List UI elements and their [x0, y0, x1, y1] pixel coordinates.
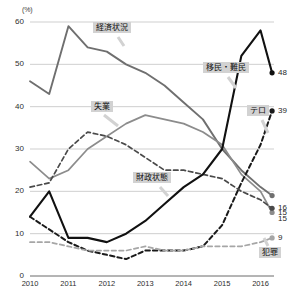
- x-tick-2014: 2014: [167, 279, 201, 288]
- end-marker-3: [269, 70, 274, 75]
- chart-canvas: [0, 0, 301, 295]
- series-line-0: [30, 26, 272, 195]
- end-label-3: 48: [278, 68, 287, 77]
- series-line-4: [30, 111, 272, 259]
- leader-line-0: [118, 37, 124, 46]
- line-chart: (%) 0102030405060 2010201120122013201420…: [0, 0, 301, 295]
- end-point-markers: [269, 70, 274, 240]
- series-label-terrorism: テロ: [247, 105, 269, 116]
- y-tick-40: 40: [6, 102, 24, 111]
- x-tick-2012: 2012: [90, 279, 124, 288]
- gridlines: [30, 22, 274, 276]
- x-tick-2016: 2016: [244, 279, 278, 288]
- leader-line-2: [104, 115, 118, 126]
- y-tick-50: 50: [6, 59, 24, 68]
- series-label-migrants: 移民・難民: [203, 62, 249, 73]
- end-label-2: 16: [278, 203, 287, 212]
- series-label-unemployment: 失業: [91, 101, 113, 112]
- end-label-4: 39: [278, 106, 287, 115]
- end-marker-4: [269, 108, 274, 113]
- end-marker-5: [269, 235, 274, 240]
- x-tick-2011: 2011: [51, 279, 85, 288]
- end-marker-2: [269, 206, 274, 211]
- series-label-fiscal: 財政状態: [133, 172, 171, 183]
- end-label-5: 9: [278, 233, 282, 242]
- series-line-5: [30, 238, 272, 251]
- y-tick-20: 20: [6, 186, 24, 195]
- y-tick-60: 60: [6, 17, 24, 26]
- series-line-2: [30, 132, 272, 208]
- end-label-1: 15: [278, 214, 287, 223]
- series-label-crime: 犯罪: [259, 247, 281, 258]
- end-marker-0: [269, 193, 274, 198]
- y-tick-30: 30: [6, 144, 24, 153]
- x-tick-2015: 2015: [205, 279, 239, 288]
- x-tick-2013: 2013: [128, 279, 162, 288]
- y-tick-10: 10: [6, 229, 24, 238]
- x-tick-2010: 2010: [13, 279, 47, 288]
- y-axis-unit: (%): [22, 6, 32, 13]
- series-label-economy: 経済状況: [93, 22, 131, 33]
